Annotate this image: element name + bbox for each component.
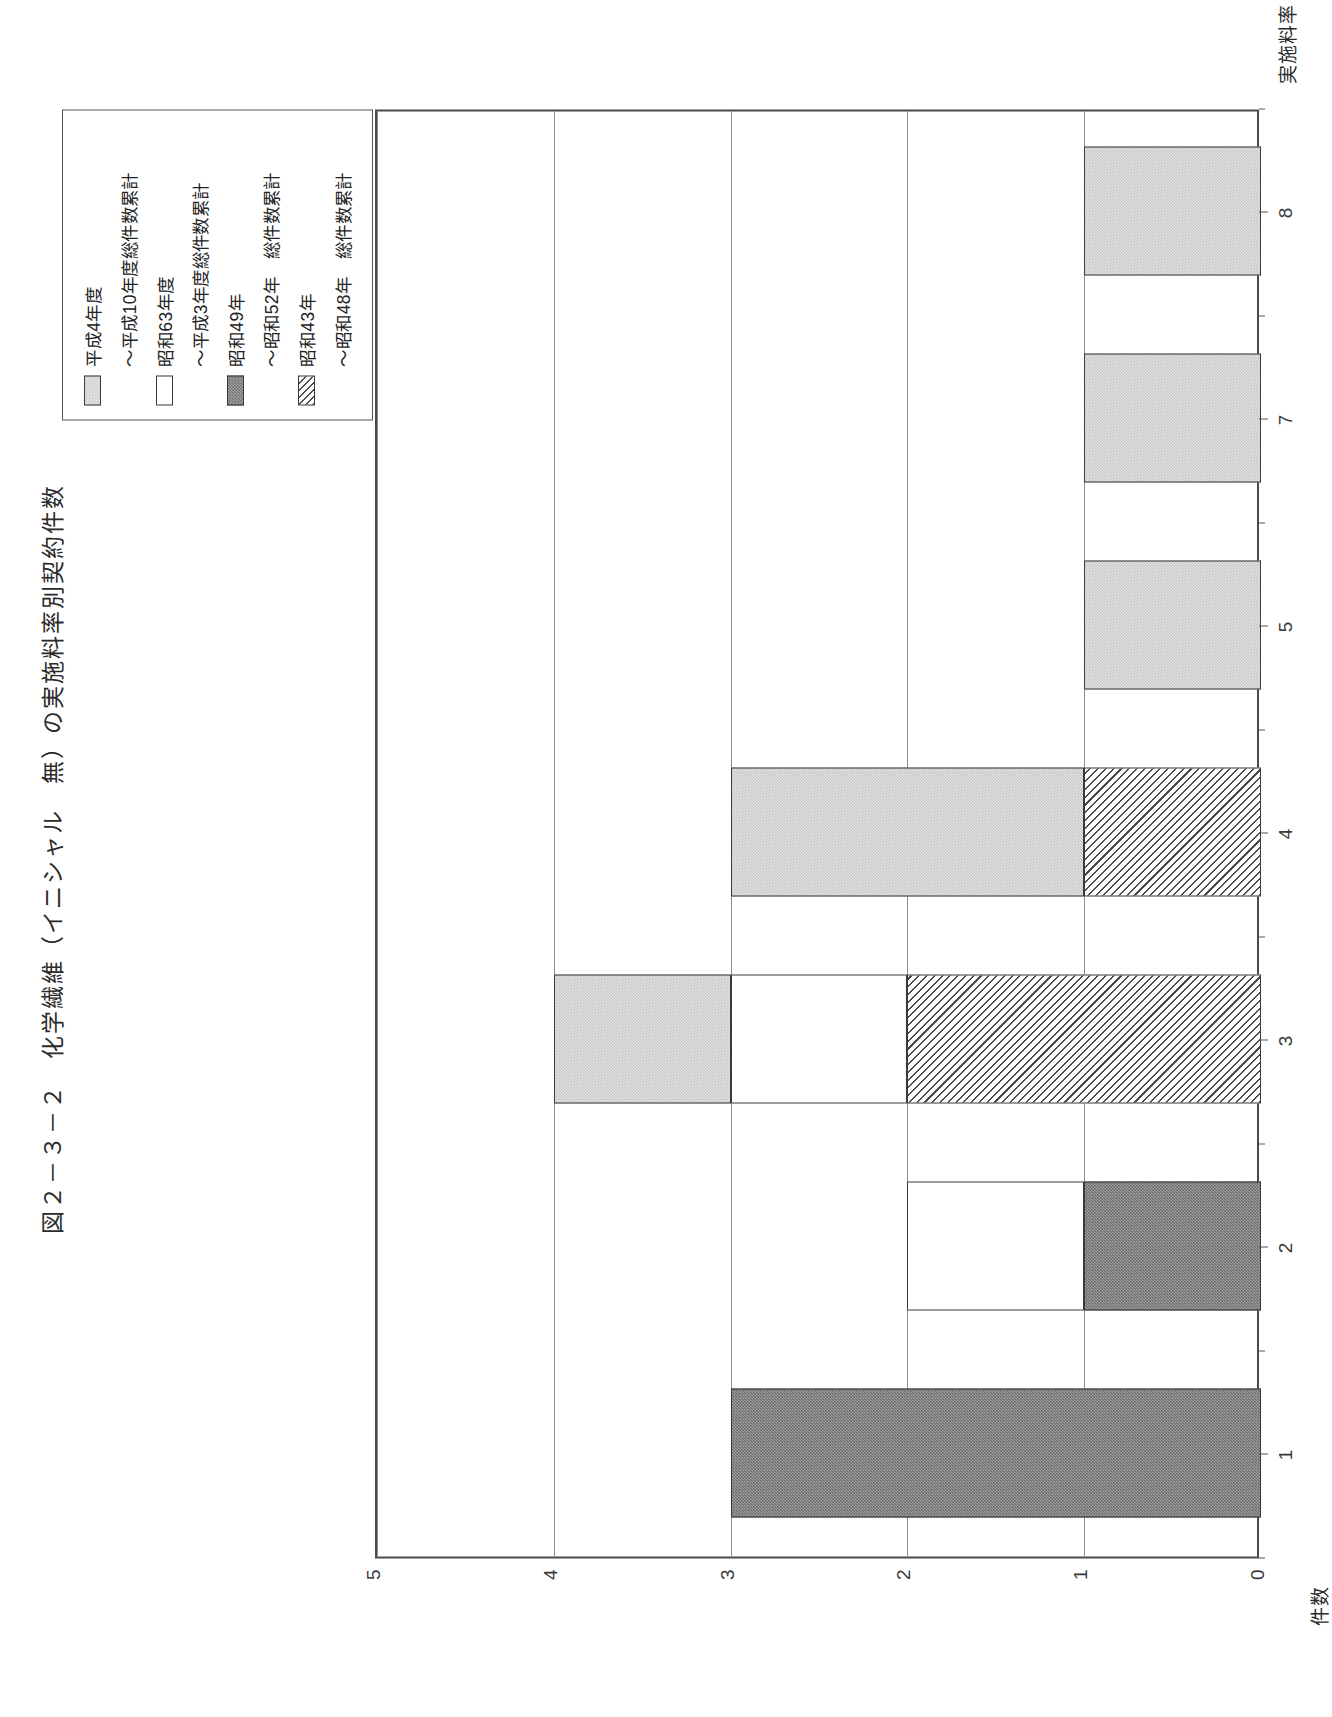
bar-segment xyxy=(907,974,1261,1102)
legend-swatch-none-icon xyxy=(191,375,208,405)
x-tick-label: 8 xyxy=(1275,193,1297,233)
y-tick-label: 3 xyxy=(717,1569,739,1609)
legend-item-label: 〜昭和52年 総件数累計 xyxy=(258,172,283,366)
legend-item: 〜平成3年度総件数累計 xyxy=(182,124,218,405)
bar-segment xyxy=(1084,767,1261,895)
x-tick-label: 5 xyxy=(1275,607,1297,647)
legend-swatch-none-icon xyxy=(120,375,137,405)
x-tick-mark-minor xyxy=(1259,522,1265,523)
legend-swatch-dot-dark-icon xyxy=(227,375,244,405)
legend-item-label: 〜昭和48年 総件数累計 xyxy=(330,172,355,366)
bar-segment xyxy=(1084,1181,1261,1309)
x-tick-label: 2 xyxy=(1275,1228,1297,1268)
x-tick-label: 7 xyxy=(1275,400,1297,440)
legend-item: 昭和63年度 xyxy=(146,124,182,405)
x-tick-mark xyxy=(1259,833,1268,834)
bar-segment xyxy=(1084,146,1261,274)
legend-item: 〜昭和48年 総件数累計 xyxy=(324,124,360,405)
x-tick-mark-minor xyxy=(1259,1557,1265,1558)
x-tick-mark-minor xyxy=(1259,1143,1265,1144)
bar-segment xyxy=(1084,560,1261,688)
x-tick-mark-minor xyxy=(1259,729,1265,730)
bar-segment xyxy=(554,974,731,1102)
x-tick-mark-minor xyxy=(1259,108,1265,109)
plot-area xyxy=(375,109,1259,1558)
x-tick-mark xyxy=(1259,212,1268,213)
bars-layer xyxy=(377,111,1257,1556)
x-tick-mark xyxy=(1259,1040,1268,1041)
legend-swatch-hatch-icon xyxy=(298,375,315,405)
x-tick-mark-minor xyxy=(1259,315,1265,316)
legend-box: 平成4年度〜平成10年度総件数累計昭和63年度〜平成3年度総件数累計昭和49年〜… xyxy=(62,109,373,420)
legend-swatch-none-icon xyxy=(334,375,351,405)
legend-item-label: 〜平成10年度総件数累計 xyxy=(116,172,141,366)
legend-swatch-none-icon xyxy=(262,375,279,405)
legend-item: 〜平成10年度総件数累計 xyxy=(111,124,147,405)
y-tick-label: 4 xyxy=(540,1569,562,1609)
legend-item: 昭和43年 xyxy=(289,124,325,405)
y-tick-label: 2 xyxy=(893,1569,915,1609)
x-axis-label: 実施料率（％） xyxy=(1273,0,1300,83)
legend-item-label: 昭和49年 xyxy=(223,294,248,366)
legend-swatch-blank-icon xyxy=(156,375,173,405)
legend-item: 平成4年度 xyxy=(75,124,111,405)
legend-item: 昭和49年 xyxy=(218,124,254,405)
x-tick-label: 1 xyxy=(1275,1435,1297,1475)
bar-segment xyxy=(731,1388,1261,1516)
bar-segment xyxy=(731,974,908,1102)
legend-item-label: 〜平成3年度総件数累計 xyxy=(187,182,212,366)
x-tick-mark xyxy=(1259,419,1268,420)
y-tick-label: 0 xyxy=(1247,1569,1269,1609)
x-tick-mark xyxy=(1259,1454,1268,1455)
x-tick-label: 4 xyxy=(1275,814,1297,854)
x-tick-label: 3 xyxy=(1275,1021,1297,1061)
y-axis-label: 件数 xyxy=(1305,1585,1332,1625)
legend-item-label: 昭和43年 xyxy=(294,294,319,366)
x-tick-mark xyxy=(1259,626,1268,627)
y-tick-label: 1 xyxy=(1070,1569,1092,1609)
y-tick-label: 5 xyxy=(363,1569,385,1609)
legend-swatch-dot-light-icon xyxy=(84,375,101,405)
bar-segment xyxy=(731,767,1085,895)
x-tick-mark-minor xyxy=(1259,936,1265,937)
bar-segment xyxy=(1084,353,1261,481)
bar-segment xyxy=(907,1181,1084,1309)
legend-item: 〜昭和52年 総件数累計 xyxy=(253,124,289,405)
x-tick-mark xyxy=(1259,1247,1268,1248)
legend-item-label: 平成4年度 xyxy=(80,286,105,366)
x-tick-mark-minor xyxy=(1259,1350,1265,1351)
legend-item-label: 昭和63年度 xyxy=(152,276,177,366)
